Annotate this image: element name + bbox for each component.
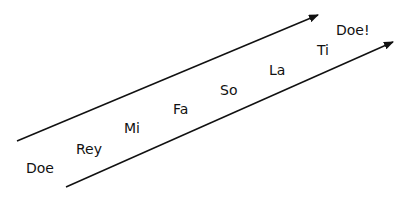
lower-arrow [66, 42, 393, 187]
note-label: Doe [26, 161, 54, 175]
scale-diagram: Doe Rey Mi Fa So La Ti Doe! [0, 0, 409, 198]
upper-arrow [17, 15, 318, 141]
note-label: So [220, 83, 237, 97]
note-label: Mi [124, 121, 140, 135]
note-label: Rey [76, 142, 102, 156]
note-label: Ti [317, 43, 329, 57]
note-label: La [269, 63, 285, 77]
note-label: Fa [173, 102, 188, 116]
note-label: Doe! [336, 23, 370, 37]
